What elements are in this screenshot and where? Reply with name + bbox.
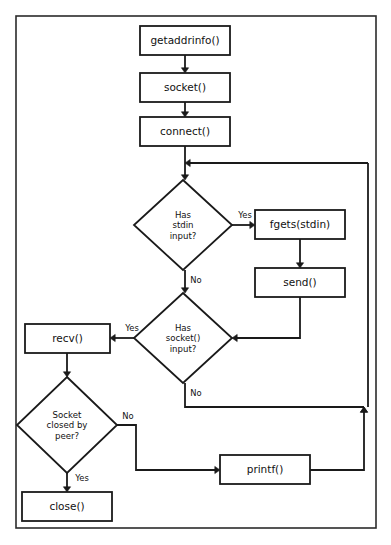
edge-label-stdin-no: No	[190, 275, 201, 285]
edge-label-peer-no: No	[122, 411, 133, 421]
connector-peer-no-to-printf	[117, 425, 220, 474]
connector-line	[185, 383, 364, 407]
decision-label-has-stdin-input-line1: Has	[175, 210, 192, 220]
decision-label-has-socket-input-line2: socket()	[166, 333, 201, 343]
connector-loop-return-to-connect-join	[185, 159, 368, 166]
node-printf[interactable]: printf()	[220, 455, 310, 484]
node-label-fgets: fgets(stdin)	[270, 218, 330, 230]
decision-label-socket-closed-by-peer-line2: closed by	[47, 420, 88, 430]
node-label-send: send()	[283, 276, 316, 288]
decision-label-has-stdin-input-line3: input?	[170, 231, 197, 241]
node-getaddrinfo[interactable]: getaddrinfo()	[140, 26, 230, 55]
flowchart-canvas: getaddrinfo()socket()connect()fgets(stdi…	[0, 0, 391, 545]
edge-label-stdin-yes: Yes	[237, 210, 252, 220]
connector-socket-no-to-right-rail	[185, 383, 368, 412]
decision-label-socket-closed-by-peer-line1: Socket	[53, 410, 82, 420]
node-label-close: close()	[49, 500, 84, 512]
connector-stdin-yes-to-fgets	[232, 221, 255, 228]
connector-line	[310, 410, 364, 470]
edge-label-peer-yes: Yes	[74, 473, 89, 483]
node-label-getaddrinfo: getaddrinfo()	[150, 34, 219, 46]
connector-send-to-socket-decision	[232, 297, 300, 342]
connector-fgets-to-send	[296, 239, 303, 268]
decision-label-has-stdin-input-line2: stdin	[172, 220, 193, 230]
connector-line	[117, 425, 217, 470]
decision-label-socket-closed-by-peer-line3: peer?	[55, 431, 79, 441]
connector-stdin-no-to-socket-decision	[181, 270, 188, 293]
connector-socket-yes-to-recv	[110, 334, 134, 341]
node-connect[interactable]: connect()	[140, 117, 230, 146]
node-label-connect: connect()	[160, 125, 210, 137]
flowchart-svg: getaddrinfo()socket()connect()fgets(stdi…	[0, 0, 391, 545]
connector-peer-yes-to-close	[63, 473, 70, 492]
arrowhead-icon	[181, 175, 188, 180]
connector-line	[236, 297, 300, 338]
decision-label-has-socket-input-line3: input?	[170, 344, 197, 354]
connector-recv-to-peer-decision	[63, 353, 70, 377]
connector-printf-to-right-rail	[310, 407, 368, 470]
arrowhead-icon	[181, 288, 188, 293]
edge-label-socket-no: No	[190, 388, 201, 398]
node-close[interactable]: close()	[22, 492, 112, 521]
decision-has-stdin-input[interactable]: Hasstdininput?	[134, 180, 232, 270]
node-socket[interactable]: socket()	[140, 73, 230, 102]
connector-getaddrinfo-to-socket	[181, 55, 188, 73]
decision-socket-closed-by-peer[interactable]: Socketclosed bypeer?	[17, 377, 117, 473]
decision-label-has-socket-input-line1: Has	[175, 323, 192, 333]
node-label-socket: socket()	[164, 81, 206, 93]
edge-label-socket-yes: Yes	[124, 323, 139, 333]
node-label-recv: recv()	[52, 332, 83, 344]
connector-socket-to-connect	[181, 102, 188, 117]
decision-has-socket-input[interactable]: Hassocket()input?	[134, 293, 232, 383]
node-label-printf: printf()	[247, 463, 284, 475]
node-send[interactable]: send()	[255, 268, 345, 297]
node-recv[interactable]: recv()	[25, 324, 110, 353]
node-fgets[interactable]: fgets(stdin)	[255, 210, 345, 239]
